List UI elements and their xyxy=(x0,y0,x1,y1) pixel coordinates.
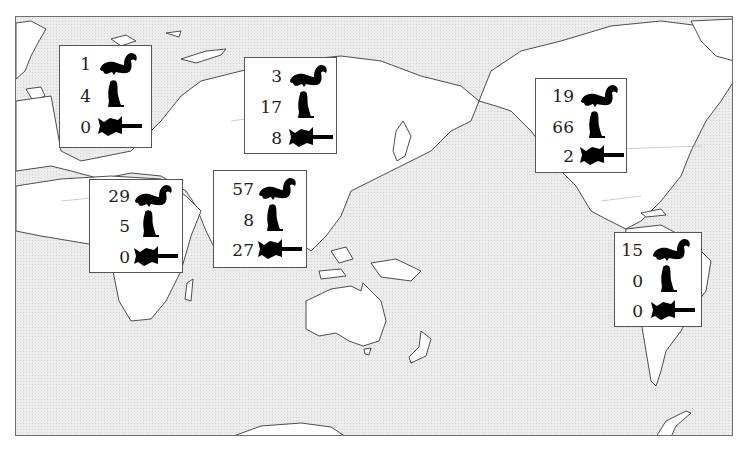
flying-squirrel-icon xyxy=(132,244,180,268)
tree-squirrel-icon xyxy=(579,83,619,109)
ground-squirrel-icon xyxy=(583,110,607,140)
flying-squirrel-count: 0 xyxy=(119,246,130,268)
tree-squirrel-icon xyxy=(98,51,138,77)
ground-squirrel-icon xyxy=(292,90,316,120)
flying-squirrel-icon xyxy=(287,125,335,149)
squirrel-count: 15 xyxy=(621,239,643,261)
flying-squirrel-icon xyxy=(649,298,697,322)
flying-squirrel-count: 2 xyxy=(563,145,574,167)
ground-squirrel-icon xyxy=(102,79,126,109)
region-box-north-asia: 3 17 8 xyxy=(244,57,337,154)
ground-squirrel-icon xyxy=(137,209,161,239)
flying-squirrel-icon xyxy=(578,143,626,167)
flying-squirrel-icon xyxy=(256,237,304,261)
tree-squirrel-icon xyxy=(257,176,297,202)
marmot-count: 8 xyxy=(243,209,254,231)
flying-squirrel-count: 0 xyxy=(632,300,643,322)
marmot-count: 66 xyxy=(552,116,574,138)
flying-squirrel-count: 8 xyxy=(271,127,282,149)
flying-squirrel-icon xyxy=(96,114,144,138)
region-box-south-asia: 57 8 27 xyxy=(213,170,307,268)
tree-squirrel-icon xyxy=(133,183,173,209)
flying-squirrel-count: 0 xyxy=(80,116,91,138)
marmot-count: 17 xyxy=(260,96,282,118)
squirrel-count: 19 xyxy=(552,85,574,107)
squirrel-count: 57 xyxy=(232,178,254,200)
region-box-europe: 1 4 0 xyxy=(59,45,152,148)
squirrel-count: 29 xyxy=(108,185,130,207)
ground-squirrel-icon xyxy=(655,264,679,294)
flying-squirrel-count: 27 xyxy=(232,239,254,261)
squirrel-count: 3 xyxy=(271,65,282,87)
tree-squirrel-icon xyxy=(651,237,691,263)
region-box-north-america: 19 66 2 xyxy=(535,78,627,173)
region-box-south-america: 15 0 0 xyxy=(614,232,702,327)
marmot-count: 4 xyxy=(80,85,91,107)
squirrel-count: 1 xyxy=(80,53,91,75)
marmot-count: 0 xyxy=(632,270,643,292)
region-box-africa: 29 5 0 xyxy=(89,179,183,273)
tree-squirrel-icon xyxy=(288,63,328,89)
marmot-count: 5 xyxy=(119,215,130,237)
ground-squirrel-icon xyxy=(261,203,285,233)
